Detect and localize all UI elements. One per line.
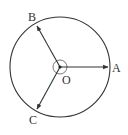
label-b: B bbox=[28, 10, 36, 24]
circle-diagram: O A B C bbox=[0, 0, 128, 135]
center-point bbox=[58, 65, 61, 68]
label-c: C bbox=[29, 113, 37, 127]
vector-ob bbox=[37, 26, 60, 67]
label-o: O bbox=[62, 73, 71, 87]
vector-oc bbox=[37, 67, 60, 109]
label-a: A bbox=[112, 61, 121, 75]
